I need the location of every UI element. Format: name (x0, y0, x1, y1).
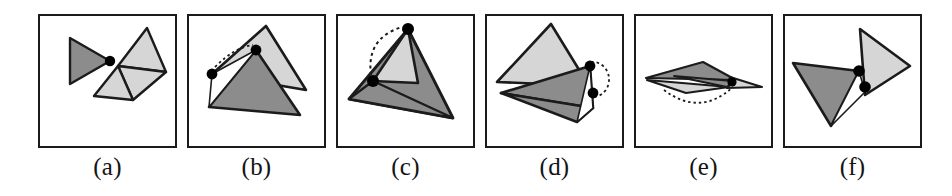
panel-a (38, 14, 177, 148)
pivot-dot (727, 77, 736, 86)
panel-f-caption: (f) (783, 150, 922, 184)
panel-c-artwork (336, 14, 475, 148)
figure-root: (a) (b) (c) (0, 0, 952, 196)
panel-e (634, 14, 773, 148)
pivot-dot (105, 56, 115, 66)
panel-f (783, 14, 922, 148)
panel-b-caption: (b) (187, 150, 326, 184)
pivot-dot-upper (853, 65, 865, 77)
pivot-dot-lower (859, 81, 871, 93)
panel-d-artwork (485, 14, 624, 148)
panel-d (485, 14, 624, 148)
panel-e-artwork (634, 14, 773, 148)
panel-a-artwork (38, 14, 177, 148)
pivot-dot-upper (585, 61, 596, 72)
dark-triangle-left (70, 38, 110, 84)
light-triangle-upper-right (118, 28, 166, 72)
pivot-dot-center (367, 75, 379, 87)
panel-e-caption: (e) (634, 150, 773, 184)
panel-b-artwork (187, 14, 326, 148)
panel-c-caption: (c) (336, 150, 475, 184)
panel-d-caption: (d) (485, 150, 624, 184)
panel-f-artwork (783, 14, 922, 148)
panel-c (336, 14, 475, 148)
pivot-dot-upper (251, 45, 262, 56)
pivot-dot-lower (207, 69, 218, 80)
panel-b (187, 14, 326, 148)
panel-a-caption: (a) (38, 150, 177, 184)
pivot-dot-lower (588, 88, 599, 99)
pivot-dot-apex (402, 23, 414, 35)
